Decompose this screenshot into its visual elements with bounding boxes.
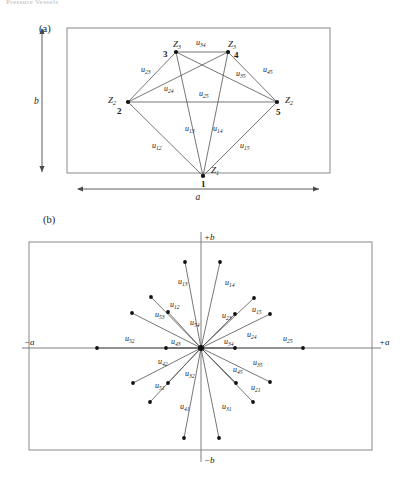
origin-node (198, 345, 204, 351)
vector-endpoint-14 (218, 260, 222, 264)
node-1 (201, 174, 205, 178)
vector-label-42: u42 (158, 357, 168, 367)
vector-label-34: u34 (224, 337, 234, 347)
node-4 (226, 50, 230, 54)
vector-endpoint-24 (268, 312, 272, 316)
vector-endpoint-41 (182, 436, 186, 440)
edge-label-25: u25 (199, 89, 209, 99)
dimension-label-a: a (196, 192, 201, 202)
vector-label-54: u54 (190, 318, 200, 328)
node-number-3: 3 (163, 49, 168, 59)
edge-label-14: u14 (213, 124, 223, 134)
vector-endpoint-43 (164, 346, 168, 350)
node-z-label-4: Z3 (228, 39, 236, 50)
edge-12 (128, 102, 203, 176)
node-number-5: 5 (276, 107, 281, 117)
vector-endpoint-25 (301, 346, 305, 350)
edge-label-35: u35 (236, 69, 246, 79)
figure-canvas: bau12u13u14u15u23u24u25u34u35u451Z12Z23Z… (0, 0, 401, 478)
vector-endpoint-13 (183, 260, 187, 264)
vector-label-51: u51 (155, 381, 165, 391)
vector-endpoint-54 (166, 310, 170, 314)
vector-endpoint-53 (130, 311, 134, 315)
node-z-label-3: Z3 (173, 39, 181, 50)
vector-label-12: u12 (170, 300, 180, 310)
vector-endpoint-52 (95, 346, 99, 350)
vector-endpoint-21 (251, 400, 255, 404)
vector-endpoint-34 (233, 346, 237, 350)
vector-label-15: u15 (252, 305, 262, 315)
vector-label-43: u43 (171, 337, 181, 347)
vector-24 (201, 314, 270, 348)
edge-label-23: u23 (141, 65, 151, 75)
node-5 (275, 100, 279, 104)
node-z-label-1: Z1 (211, 165, 219, 176)
vector-13 (185, 262, 201, 348)
vector-label-14: u14 (225, 278, 235, 288)
edge-label-45: u45 (263, 65, 273, 75)
node-number-4: 4 (234, 50, 239, 60)
vector-endpoint-15 (252, 296, 256, 300)
vector-label-41: u41 (180, 402, 190, 412)
vector-label-32: u32 (185, 369, 195, 379)
axis-label-minus-a: −a (24, 337, 35, 347)
vector-21 (201, 348, 253, 402)
node-z-label-5: Z2 (285, 95, 293, 106)
vector-endpoint-45 (234, 381, 238, 385)
vector-41 (184, 348, 201, 438)
vector-endpoint-51 (148, 400, 152, 404)
vector-endpoint-42 (131, 381, 135, 385)
node-2 (126, 100, 130, 104)
edge-label-24: u24 (164, 84, 174, 94)
vector-label-25: u25 (283, 334, 293, 344)
vector-label-24: u24 (247, 330, 257, 340)
edge-label-12: u12 (152, 141, 162, 151)
vector-endpoint-12 (149, 295, 153, 299)
edge-label-13: u13 (185, 124, 195, 134)
figure-root: Pressure Vessels (a) (b) bau12u13u14u15u… (0, 0, 401, 478)
vector-endpoint-23 (233, 312, 237, 316)
vector-label-13: u13 (178, 277, 188, 287)
node-3 (174, 50, 178, 54)
vector-31 (201, 348, 219, 438)
axis-label-plus-b: +b (204, 232, 215, 242)
vector-endpoint-31 (217, 436, 221, 440)
axis-label-plus-a: +a (379, 337, 390, 347)
node-number-2: 2 (117, 106, 122, 116)
panel-a: bau12u13u14u15u23u24u25u34u35u451Z12Z23Z… (34, 28, 330, 202)
vector-label-23: u23 (222, 311, 232, 321)
edge-label-34: u34 (196, 38, 206, 48)
vector-label-21: u21 (251, 383, 261, 393)
node-number-1: 1 (201, 179, 206, 189)
edge-label-15: u15 (240, 141, 250, 151)
vector-label-52: u52 (125, 334, 135, 344)
vector-label-35: u35 (253, 358, 263, 368)
dimension-label-b: b (34, 96, 39, 106)
axis-label-minus-b: −b (204, 455, 215, 465)
panel-b: +b−b+a−au13u14u12u15u53u54u23u24u52u43u3… (22, 232, 390, 465)
edge-13 (176, 52, 203, 176)
edge-14 (203, 52, 228, 176)
vector-endpoint-35 (268, 380, 272, 384)
edge-23 (128, 52, 176, 102)
vector-endpoint-32 (166, 381, 170, 385)
node-z-label-2: Z2 (108, 95, 116, 106)
vector-14 (201, 262, 220, 348)
vector-label-53: u53 (155, 310, 165, 320)
vector-label-31: u31 (222, 402, 232, 412)
